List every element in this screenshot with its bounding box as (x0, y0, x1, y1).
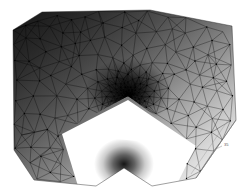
mesh-body (13, 10, 236, 188)
mesh-canvas (0, 0, 243, 188)
corner-label: 35 (224, 143, 228, 147)
mesh-figure: 35 (0, 0, 243, 188)
